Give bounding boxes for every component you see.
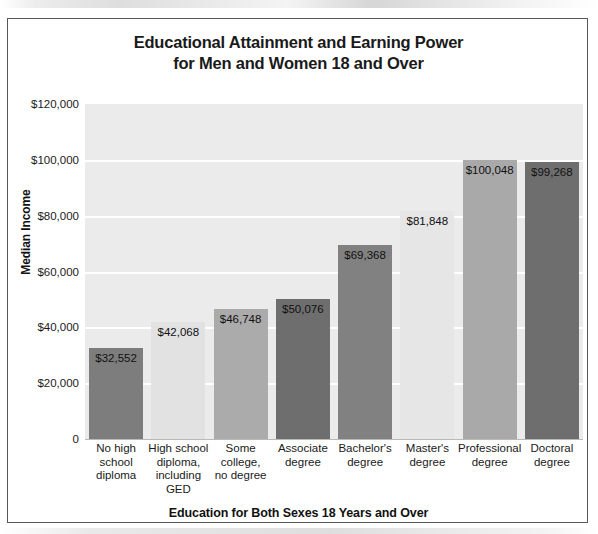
y-axis-tick-label: 0 — [13, 433, 85, 445]
x-axis-category-label-line: Professional — [456, 442, 524, 456]
x-axis-category-label: No highschooldiploma — [82, 442, 150, 483]
x-axis-category-label-line: Doctoral — [518, 442, 586, 456]
x-axis-category-label-line: degree — [331, 456, 399, 470]
x-axis-category-label-line: Associate — [269, 442, 337, 456]
y-axis-tick-label: $100,000 — [13, 154, 85, 166]
x-axis-category-label-line: GED — [144, 483, 212, 497]
x-axis-category-label: Master'sdegree — [393, 442, 461, 469]
chart-title-line-2: for Men and Women 18 and Over — [8, 53, 589, 74]
chart-screenshot: Educational Attainment and Earning Power… — [0, 0, 598, 534]
chart-title: Educational Attainment and Earning Power… — [8, 32, 589, 74]
scan-artifact-top — [0, 0, 598, 8]
x-axis-category-label-line: school — [82, 456, 150, 470]
bar-value-label: $69,368 — [338, 249, 392, 261]
bar-value-label: $46,748 — [214, 313, 268, 325]
x-axis-category-label: High schooldiploma,includingGED — [144, 442, 212, 496]
bar: $42,068 — [151, 322, 205, 439]
x-axis-baseline — [85, 439, 583, 440]
bar: $69,368 — [338, 245, 392, 439]
x-axis-category-label-line: degree — [393, 456, 461, 470]
x-axis-category-label-line: High school — [144, 442, 212, 456]
x-axis-category-label-line: no degree — [207, 469, 275, 483]
x-axis-category-labels: No highschooldiplomaHigh schooldiploma,i… — [85, 442, 583, 504]
x-axis-category-label: Somecollege,no degree — [207, 442, 275, 483]
bar-value-label: $81,848 — [400, 215, 454, 227]
bar: $46,748 — [214, 309, 268, 440]
y-axis-ticks: $120,000$100,000$80,000$60,000$40,000$20… — [8, 104, 85, 439]
x-axis-category-label-line: degree — [518, 456, 586, 470]
y-axis-tick-label: $60,000 — [13, 266, 85, 278]
bar: $81,848 — [400, 211, 454, 439]
bar: $100,048 — [463, 160, 517, 439]
y-axis-tick-label: $120,000 — [13, 98, 85, 110]
x-axis-category-label-line: Master's — [393, 442, 461, 456]
x-axis-category-label-line: diploma, — [144, 456, 212, 470]
scan-artifact-bottom — [0, 528, 598, 534]
chart-frame: Educational Attainment and Earning Power… — [7, 18, 588, 523]
y-axis-tick-label: $20,000 — [13, 377, 85, 389]
x-axis-category-label: Bachelor'sdegree — [331, 442, 399, 469]
x-axis-category-label: Professionaldegree — [456, 442, 524, 469]
x-axis-category-label-line: Some — [207, 442, 275, 456]
y-axis-tick-label: $80,000 — [13, 210, 85, 222]
bar: $50,076 — [276, 299, 330, 439]
chart-title-line-1: Educational Attainment and Earning Power — [134, 33, 464, 51]
bar-value-label: $42,068 — [151, 326, 205, 338]
x-axis-category-label-line: college, — [207, 456, 275, 470]
x-axis-category-label-line: diploma — [82, 469, 150, 483]
x-axis-category-label-line: including — [144, 469, 212, 483]
x-axis-category-label: Doctoraldegree — [518, 442, 586, 469]
bar-value-label: $50,076 — [276, 303, 330, 315]
x-axis-category-label-line: No high — [82, 442, 150, 456]
x-axis-title: Education for Both Sexes 18 Years and Ov… — [8, 506, 589, 520]
bar: $99,268 — [525, 162, 579, 439]
x-axis-category-label-line: Bachelor's — [331, 442, 399, 456]
x-axis-category-label: Associatedegree — [269, 442, 337, 469]
bar: $32,552 — [89, 348, 143, 439]
x-axis-category-label-line: degree — [269, 456, 337, 470]
y-axis-tick-label: $40,000 — [13, 321, 85, 333]
x-axis-category-label-line: degree — [456, 456, 524, 470]
bar-value-label: $32,552 — [89, 352, 143, 364]
bar-value-label: $99,268 — [525, 166, 579, 178]
plot-area: $32,552$42,068$46,748$50,076$69,368$81,8… — [85, 104, 583, 439]
bar-value-label: $100,048 — [463, 164, 517, 176]
